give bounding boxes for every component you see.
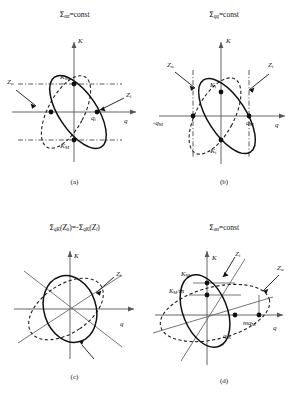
panel-a-k-max-label: KM: [60, 74, 69, 82]
panel-a-k-min-label: -KM: [58, 143, 69, 151]
panel-a-y-axis-label: K: [78, 38, 83, 45]
panel-c: ΣqK(Zα)=-ΣqK(Zi): [0, 197, 149, 395]
panel-b-const: =const: [219, 10, 239, 19]
panel-b-y-arrowhead: [219, 42, 224, 48]
panel-c-plot: [0, 241, 149, 381]
panel-d-z-i-label: Zi: [235, 251, 240, 259]
panel-b-x-arrowhead: [279, 114, 285, 119]
panel-b-axes: [159, 42, 285, 164]
panel-d-mq-m-label: mqM: [243, 320, 256, 328]
panel-b-q-m-neg-label: -qM: [153, 120, 163, 128]
panel-b-title: Σqq=const: [149, 10, 299, 19]
panel-c-arg-1-open: (Z: [60, 223, 67, 232]
panel-d-ellipse-z-i: [170, 268, 239, 355]
panel-a-q-i-label: qi: [91, 115, 96, 123]
panel-d-plot: [149, 239, 299, 381]
panel-a-x-arrowhead: [130, 110, 136, 115]
panel-b-z-i-label: Zi: [268, 62, 273, 70]
panel-c-title: ΣqK(Zα)=-ΣqK(Zi): [0, 223, 149, 232]
panel-a-x-axis-label: q: [124, 118, 128, 125]
panel-c-arg-2-open: (Z: [89, 223, 96, 232]
panel-b-y-axis-label: K: [226, 38, 231, 45]
panel-a-z-i-label: Zi: [126, 92, 131, 100]
figure-grid: Σαα=const: [0, 0, 299, 395]
panel-d-y-axis-label: K: [212, 255, 217, 262]
panel-d-const: =const: [219, 223, 239, 232]
panel-d-y-arrowhead: [205, 251, 210, 257]
panel-c-x-axis-label: q: [120, 321, 124, 328]
panel-c-y-arrowhead: [68, 251, 73, 257]
panel-a: Σαα=const: [0, 0, 149, 197]
panel-d-caption: (d): [149, 377, 299, 385]
panel-b-k-i-label: Ki: [210, 82, 216, 90]
panel-b-plot: [149, 24, 299, 174]
panel-d-oblique-axes: [153, 259, 273, 361]
panel-d-z-alpha-label: Zα: [277, 265, 283, 273]
panel-d-title: Σαα=const: [149, 223, 299, 232]
panel-c-y-axis-label: K: [74, 253, 79, 260]
panel-c-x-arrowhead: [128, 307, 134, 312]
panel-b-x-axis-label: q: [275, 122, 279, 129]
panel-b-leaders: [175, 72, 269, 90]
panel-c-leaders: [82, 277, 114, 359]
panel-c-z-i-label: Zi: [116, 271, 121, 279]
panel-d-x-axis-label: q: [273, 325, 277, 332]
panel-d-axes: [155, 251, 283, 365]
panel-a-title: Σαα=const: [0, 10, 149, 19]
panel-d-k-max-label: KM: [181, 271, 190, 279]
panel-d-leader-arrow-z-alpha: [263, 289, 268, 294]
panel-c-arg-2-close: ): [97, 223, 100, 232]
panel-a-const: =const: [70, 10, 90, 19]
panel-c-eq: =-: [72, 223, 79, 232]
panel-d-x-arrowhead: [277, 313, 283, 318]
panel-b: Σqq=const: [149, 0, 299, 197]
panel-b-q-m-label: qM: [246, 120, 254, 128]
panel-d-q-m-label: qM: [223, 333, 231, 341]
panel-b-k-i-neg-label: -Ki: [208, 148, 216, 156]
panel-b-z-alpha-label: Zα: [167, 62, 173, 70]
panel-a-z-alpha-label: Zα: [7, 79, 13, 87]
panel-a-y-arrowhead: [72, 42, 77, 48]
panel-b-caption: (b): [149, 178, 299, 186]
panel-d: Σαα=const: [149, 197, 299, 395]
panel-a-caption: (a): [0, 178, 149, 186]
panel-c-caption: (c): [0, 373, 149, 381]
panel-d-k-over-m-label: KM/m: [169, 288, 184, 296]
